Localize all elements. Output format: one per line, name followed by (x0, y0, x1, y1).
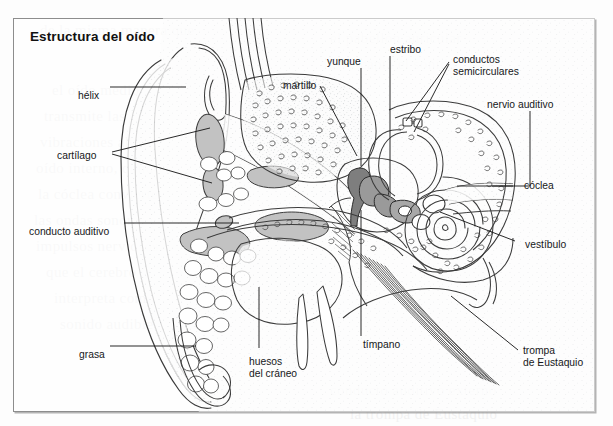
label-conductos-semicirculares: conductossemicirculares (453, 54, 519, 79)
label-cartilago: cartílago (57, 150, 97, 162)
label-martillo: martillo (283, 80, 316, 92)
label-vestibulo: vestíbulo (525, 239, 566, 251)
label-nervio-auditivo: nervio auditivo (487, 99, 553, 111)
figure-root: de la misma manera queel oído mediotrans… (0, 0, 613, 426)
label-huesos-del-craneo: huesosdel cráneo (249, 356, 297, 381)
label-trompa-de-eustaquio: trompade Eustaquio (523, 345, 583, 370)
label-yunque: yunque (327, 56, 361, 68)
label-estribo: estribo (390, 44, 421, 56)
label-helix: hélix (78, 90, 99, 102)
label-conducto-auditivo: conducto auditivo (29, 226, 109, 238)
label-coclea: cóclea (524, 180, 554, 192)
label-timpano: tímpano (363, 339, 400, 351)
label-grasa: grasa (79, 349, 105, 361)
